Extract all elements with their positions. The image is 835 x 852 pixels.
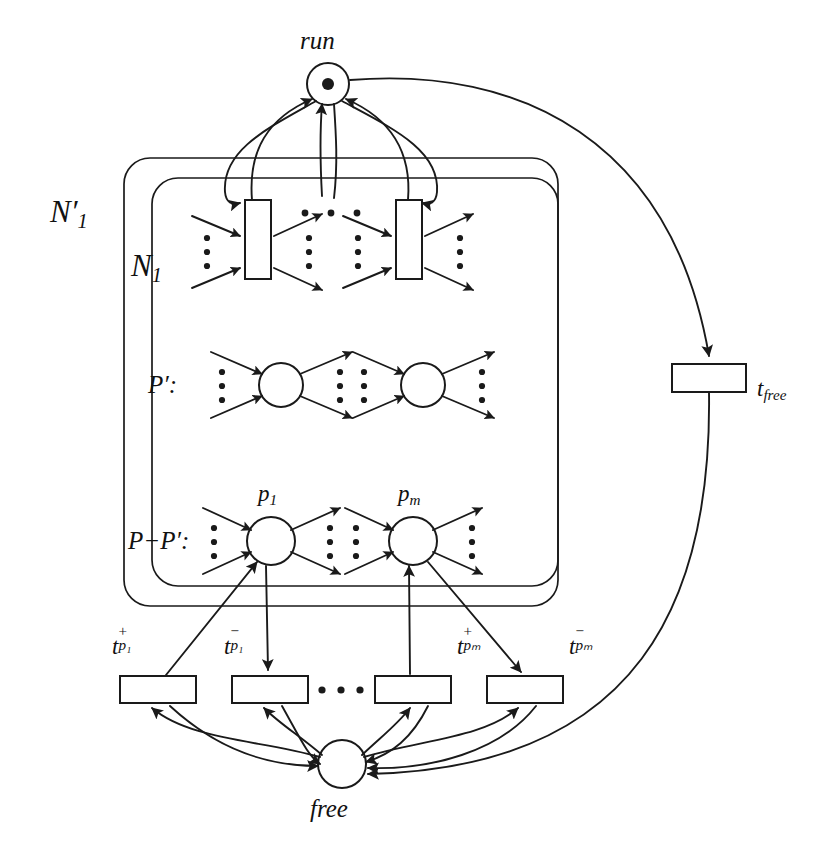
- label-place-p1-sub: 1: [270, 491, 278, 508]
- label-inner-net-sub: 1: [152, 264, 162, 286]
- place-p1: [247, 517, 295, 565]
- label-place-pm-sub: m: [410, 491, 421, 508]
- transition-t-free: [672, 364, 746, 392]
- arc-in-p1-lower: [203, 552, 251, 574]
- arc-free-to-tminusp1: [264, 708, 322, 755]
- arc-tfree-to-free: [368, 392, 709, 774]
- inner-net-boundary: [152, 178, 558, 586]
- arc-in-left-transition-upper: [192, 216, 240, 236]
- label-t-minus-pm-sub: pₘ: [575, 637, 592, 652]
- label-place-run: run: [300, 28, 335, 53]
- arc-run-to-right-transition: [342, 101, 437, 204]
- transition-inner-left: [245, 200, 271, 279]
- transition-t-minus-p1: [232, 676, 308, 703]
- arc-out-right-transition-upper: [425, 214, 473, 236]
- label-place-pm: pm: [398, 482, 420, 507]
- arc-out-right-transition-lower: [425, 268, 473, 290]
- arc-out-pprime-left-upper: [300, 352, 352, 374]
- arc-out-pprime-right-lower: [442, 396, 494, 418]
- label-transition-t-minus-p1: t−p₁: [224, 631, 245, 658]
- transition-t-plus-pm: [375, 676, 451, 703]
- label-set-p-prime: P′:: [148, 372, 177, 397]
- arc-p1-to-tminusp1: [266, 566, 268, 670]
- label-transition-t-free: tfree: [757, 377, 786, 402]
- ellipsis-bottom-transitions: [318, 686, 363, 693]
- arc-in-left-transition-lower: [192, 268, 240, 288]
- label-set-p-minus-p-prime: P−P′:: [128, 528, 189, 553]
- transition-inner-right: [396, 200, 422, 279]
- arc-out-left-transition-upper: [274, 214, 322, 236]
- label-t-plus-p1-scripts: +p₁: [118, 631, 132, 654]
- arc-out-pprime-right-upper: [442, 352, 494, 374]
- arc-out-pprime-left-lower: [300, 396, 352, 418]
- label-outer-net: N′1: [50, 196, 88, 231]
- arc-in-p1-upper: [203, 508, 251, 530]
- label-t-plus-p1-sub: p₁: [118, 637, 131, 652]
- petri-net-figure: run N′1 N1 P′: P−P′: p1 pm tfree t+p₁ t−…: [0, 0, 835, 852]
- label-transition-t-plus-pm: t+pₘ: [457, 631, 478, 658]
- label-transition-t-plus-p1: t+p₁: [112, 631, 133, 658]
- arc-in-pm-upper: [345, 508, 393, 530]
- label-place-free: free: [310, 796, 348, 821]
- arc-in-pprime-left-upper: [211, 352, 262, 374]
- place-run-token: [322, 78, 334, 90]
- label-t-plus-pm-sub: pₘ: [463, 637, 480, 652]
- place-pprime-right: [401, 363, 445, 407]
- arc-in-pprime-right-lower: [353, 396, 404, 418]
- label-outer-net-sub: 1: [77, 210, 87, 232]
- arc-left-transition-to-run: [252, 99, 313, 200]
- transition-t-plus-p1: [120, 676, 196, 703]
- label-inner-net-letter: N: [131, 248, 152, 283]
- place-pprime-left: [259, 363, 303, 407]
- arc-out-left-transition-lower: [274, 268, 322, 290]
- label-inner-net: N1: [131, 250, 162, 285]
- arc-in-right-transition-upper: [343, 216, 391, 236]
- arc-right-transition-to-run: [346, 99, 408, 200]
- arc-tplusp1-to-p1: [166, 562, 257, 675]
- arc-in-pprime-right-upper: [353, 352, 404, 374]
- label-t-minus-p1-scripts: −p₁: [230, 631, 244, 654]
- label-t-plus-pm-scripts: +pₘ: [463, 631, 477, 654]
- label-place-pm-letter: p: [398, 481, 410, 506]
- label-outer-net-letter: N: [50, 194, 71, 229]
- label-t-minus-pm-scripts: −pₘ: [575, 631, 589, 654]
- arc-center-to-run: [321, 104, 323, 196]
- label-place-p1-letter: p: [258, 481, 270, 506]
- label-transition-t-minus-pm: t−pₘ: [569, 631, 590, 658]
- arc-in-pprime-left-lower: [211, 396, 262, 418]
- place-free: [318, 740, 366, 788]
- label-place-p1: p1: [258, 482, 277, 507]
- place-pm: [389, 517, 437, 565]
- label-t-minus-p1-sub: p₁: [230, 637, 243, 652]
- petri-net-canvas: [0, 0, 835, 852]
- arc-run-center-down: [334, 104, 336, 198]
- arc-run-to-left-transition: [225, 101, 316, 204]
- arc-in-right-transition-lower: [343, 268, 391, 288]
- arc-in-pm-lower: [345, 552, 393, 574]
- ellipsis-top-transitions: [302, 210, 361, 217]
- arc-tplusp1-to-free: [170, 706, 318, 766]
- label-t-free-sub: free: [763, 386, 786, 403]
- transition-t-minus-pm: [487, 676, 563, 703]
- arc-tpluspm-to-pm: [409, 566, 410, 674]
